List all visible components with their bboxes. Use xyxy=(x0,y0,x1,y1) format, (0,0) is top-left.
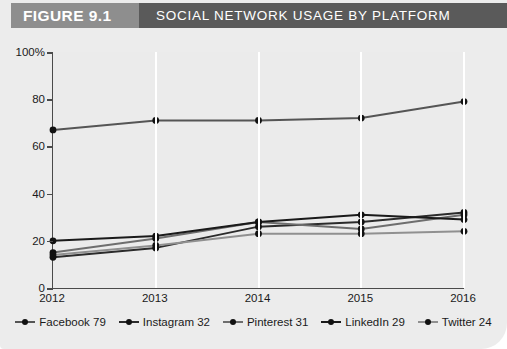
y-tick-mark-40 xyxy=(47,194,53,196)
y-tick-mark-0 xyxy=(47,288,53,290)
legend-marker-instagram-icon xyxy=(119,317,139,327)
y-tick-mark-20 xyxy=(47,241,53,243)
figure-card: FIGURE 9.1 SOCIAL NETWORK USAGE BY PLATF… xyxy=(0,0,507,349)
legend-marker-twitter-icon xyxy=(418,317,438,327)
chart-legend: Facebook 79Instagram 32Pinterest 31Linke… xyxy=(0,316,507,328)
legend-label-facebook: Facebook 79 xyxy=(39,316,106,328)
figure-title: SOCIAL NETWORK USAGE BY PLATFORM xyxy=(156,8,451,23)
legend-marker-pinterest-icon xyxy=(223,317,243,327)
gridline-2016 xyxy=(463,52,465,288)
x-tick-label-2016: 2016 xyxy=(450,292,476,304)
figure-title-block: SOCIAL NETWORK USAGE BY PLATFORM xyxy=(139,3,507,28)
x-tick-label-2014: 2014 xyxy=(245,292,271,304)
gridline-2014 xyxy=(258,52,260,288)
legend-label-linkedin: LinkedIn 29 xyxy=(345,316,404,328)
y-tick-label-60: 60 xyxy=(0,140,45,152)
legend-item-instagram[interactable]: Instagram 32 xyxy=(119,316,210,328)
y-tick-label-20: 20 xyxy=(0,235,45,247)
data-point-facebook-2012 xyxy=(50,126,57,133)
legend-label-pinterest: Pinterest 31 xyxy=(247,316,308,328)
figure-header: FIGURE 9.1 SOCIAL NETWORK USAGE BY PLATF… xyxy=(11,3,507,28)
legend-item-twitter[interactable]: Twitter 24 xyxy=(418,316,492,328)
legend-marker-linkedin-icon xyxy=(321,317,341,327)
x-tick-label-2013: 2013 xyxy=(142,292,168,304)
data-point-twitter-2012 xyxy=(50,252,57,259)
y-tick-label-100: 100% xyxy=(0,46,45,58)
legend-label-instagram: Instagram 32 xyxy=(143,316,210,328)
gridline-2015 xyxy=(360,52,362,288)
legend-item-linkedin[interactable]: LinkedIn 29 xyxy=(321,316,404,328)
y-tick-label-80: 80 xyxy=(0,93,45,105)
legend-item-facebook[interactable]: Facebook 79 xyxy=(15,316,106,328)
chart-plot-wrapper: 020406080100%20122013201420152016 xyxy=(0,28,507,313)
y-tick-mark-100 xyxy=(47,52,53,54)
chart-plot-area xyxy=(52,52,464,289)
x-tick-label-2012: 2012 xyxy=(39,292,65,304)
y-tick-label-40: 40 xyxy=(0,188,45,200)
legend-item-pinterest[interactable]: Pinterest 31 xyxy=(223,316,308,328)
legend-marker-facebook-icon xyxy=(15,317,35,327)
figure-label: FIGURE 9.1 xyxy=(23,7,111,25)
y-tick-mark-80 xyxy=(47,99,53,101)
legend-label-twitter: Twitter 24 xyxy=(442,316,492,328)
x-tick-label-2015: 2015 xyxy=(347,292,373,304)
gridline-2013 xyxy=(155,52,157,288)
figure-label-block: FIGURE 9.1 xyxy=(11,3,139,28)
y-tick-mark-60 xyxy=(47,146,53,148)
